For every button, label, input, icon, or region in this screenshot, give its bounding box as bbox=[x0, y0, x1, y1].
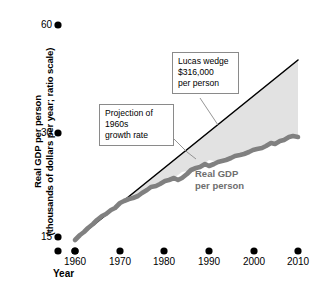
y-tick-dot-15 bbox=[54, 233, 61, 240]
y-tick-label-15: 15 bbox=[30, 231, 52, 242]
x-tick-dot-1960 bbox=[71, 247, 78, 254]
lucas-wedge-chart: Real GDP per person(thousands of dollars… bbox=[0, 0, 332, 292]
projection-callout: Projection of 1960s growth rate bbox=[99, 104, 174, 146]
x-tick-dot-1970 bbox=[116, 247, 123, 254]
x-tick-label-1980: 1980 bbox=[146, 256, 182, 267]
x-tick-label-2000: 2000 bbox=[236, 256, 272, 267]
y-axis-title-line1: Real GDP per person bbox=[32, 95, 43, 188]
y-axis-title-line2: (thousands of dollars per year; ratio sc… bbox=[43, 48, 54, 236]
x-tick-label-2010: 2010 bbox=[280, 256, 316, 267]
x-tick-label-1970: 1970 bbox=[102, 256, 138, 267]
y-axis-title: Real GDP per person(thousands of dollars… bbox=[32, 27, 55, 257]
x-tick-dot-1990 bbox=[205, 247, 212, 254]
x-tick-label-1990: 1990 bbox=[191, 256, 227, 267]
y-tick-label-60: 60 bbox=[30, 19, 52, 30]
lucas-wedge-callout-leader bbox=[200, 98, 218, 125]
x-axis-title: Year bbox=[53, 268, 74, 279]
y-tick-label-30: 30 bbox=[30, 127, 52, 138]
lucas-wedge-callout: Lucas wedge $316,000 per person bbox=[172, 52, 239, 94]
x-tick-dot-2000 bbox=[250, 247, 257, 254]
real-gdp-series-label: Real GDP per person bbox=[195, 168, 244, 191]
origin-dot-left bbox=[54, 247, 61, 254]
x-tick-label-1960: 1960 bbox=[57, 256, 93, 267]
y-tick-dot-30 bbox=[54, 129, 61, 136]
x-tick-dot-1980 bbox=[160, 247, 167, 254]
y-tick-dot-60 bbox=[54, 21, 61, 28]
x-tick-dot-2010 bbox=[294, 247, 301, 254]
